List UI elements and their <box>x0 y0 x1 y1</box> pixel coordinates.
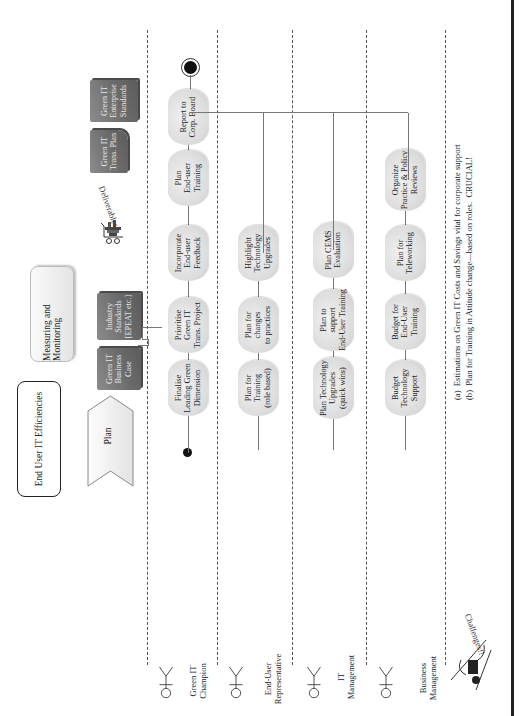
activity-plan-support-training: Plan to support End-User Training <box>313 289 353 351</box>
actor-icon <box>222 660 250 700</box>
start-node <box>183 449 192 458</box>
footnote-a: (a) Estimations on Green IT Costs and Sa… <box>452 144 463 400</box>
doc-connector <box>148 340 149 346</box>
measuring-monitoring-box: Measuring and Monitoring <box>30 266 74 362</box>
merge-line <box>408 113 409 180</box>
activity-plan-tech-upgrades: Plan Technology Upgrades (quick wins) <box>313 357 353 419</box>
lane-divider <box>292 30 293 665</box>
activity-plan-end-user-training: Plan End-user Training <box>168 150 208 206</box>
lane-divider <box>445 30 446 665</box>
activity-report-corp-board: Report to Corp. Board <box>168 89 208 145</box>
doc-enterprise-standards: Green IT Enterprise Standards <box>90 80 138 122</box>
title-text: End User IT Efficiencies <box>34 392 44 486</box>
lane-actor-label: Green IT Champion <box>188 656 208 706</box>
lane-divider <box>366 30 367 665</box>
lane-actor-label: Business Management <box>418 648 438 708</box>
activity-plan-changes-practices: Plan for changes to practices <box>238 297 278 353</box>
merge-line <box>333 113 334 250</box>
lane-actor-label: End-User Representative <box>263 646 283 712</box>
merge-line <box>263 113 264 253</box>
actor-icon <box>152 660 180 700</box>
activity-plan-teleworking: Plan for Teleworking <box>385 225 425 281</box>
diagram-canvas: End User IT Efficiencies Plan Measuring … <box>0 0 519 716</box>
lane-actor-label: IT Management <box>336 644 356 710</box>
doc-connector <box>142 328 143 340</box>
actor-icon <box>372 660 400 700</box>
activity-prioritise-trans-project: Prioritise Green IT Trans. Project <box>168 297 208 353</box>
doc-industry-standards: Industry Standards [EPEAT etc.] <box>97 293 141 340</box>
merge-line <box>190 112 408 113</box>
plan-label: Plan <box>103 416 113 456</box>
measuring-monitoring-label: Measuring and Monitoring <box>42 267 62 361</box>
doc-business-case: Green IT Business Case <box>97 348 141 390</box>
lane-divider <box>147 30 148 665</box>
activity-plan-training-role: Plan for Training (role based) <box>238 360 278 416</box>
end-node <box>182 60 199 77</box>
activity-budget-end-user-training: Budget for End-User Training <box>385 294 425 350</box>
activity-highlight-tech-upgrades: Highlight Technology Upgrades <box>238 225 278 281</box>
footnote-b: (b) Plan for Training in Attitude change… <box>464 157 475 400</box>
activity-organize-reviews: Organize Practice & Policy Reviews <box>385 149 425 211</box>
activity-incorporate-feedback: Incorporate End-user Feedback <box>168 225 208 281</box>
activity-finalise-green-dimension: Finalise Leading Green Dimension <box>168 360 208 416</box>
doc-connector <box>142 327 162 328</box>
doc-trans-plan: Green IT Trans. Plan <box>90 130 128 173</box>
lane-divider <box>217 30 218 665</box>
activity-budget-tech-support: Budget Technology Support <box>385 360 425 416</box>
page-border <box>511 0 514 716</box>
actor-icon <box>300 660 328 700</box>
title-box: End User IT Efficiencies <box>17 381 61 497</box>
